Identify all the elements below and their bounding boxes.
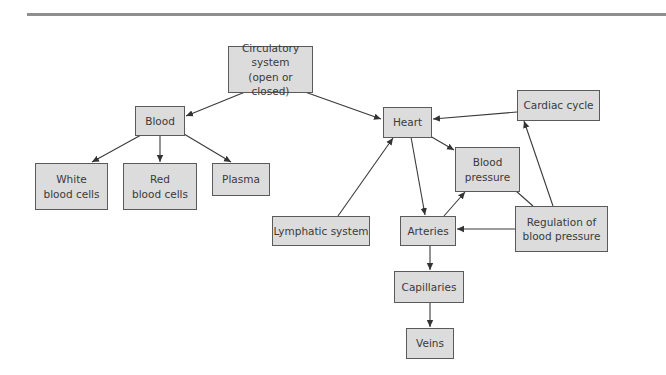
edge-cardiac-heart <box>433 112 517 119</box>
node-plasma: Plasma <box>212 163 270 196</box>
node-blood-pressure: Blood pressure <box>455 147 520 192</box>
node-circulatory-system: Circulatory system (open or closed) <box>228 46 313 93</box>
edge-lymph-heart <box>338 138 393 216</box>
edge-heart-arteries <box>411 137 425 215</box>
node-white-blood-cells: White blood cells <box>35 163 108 210</box>
node-regulation-of-blood-pressure: Regulation of blood pressure <box>515 206 608 252</box>
edge-arteries-bp <box>444 192 465 216</box>
node-capillaries: Capillaries <box>394 271 464 303</box>
edge-regulation-cardiac <box>524 121 553 206</box>
edge-circulatory-heart <box>305 92 381 119</box>
node-cardiac-cycle: Cardiac cycle <box>517 90 600 121</box>
node-lymphatic-system: Lymphatic system <box>272 216 370 246</box>
node-arteries: Arteries <box>400 216 456 246</box>
edge-blood-plasma <box>184 134 231 162</box>
edge-blood-white <box>92 135 141 162</box>
node-red-blood-cells: Red blood cells <box>123 163 197 210</box>
edge-regulation-bp <box>516 191 533 206</box>
edge-heart-bp <box>430 136 454 150</box>
node-blood: Blood <box>135 106 185 136</box>
node-heart: Heart <box>383 107 432 138</box>
node-veins: Veins <box>406 328 454 359</box>
